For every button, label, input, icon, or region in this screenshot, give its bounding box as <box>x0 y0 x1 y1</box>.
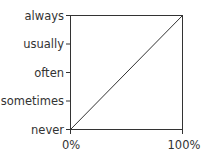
x-label-0: 0% <box>62 138 80 152</box>
y-label-never: never <box>31 123 64 137</box>
x-ticks <box>71 130 183 135</box>
y-label-usually: usually <box>23 37 64 51</box>
diagonal-line <box>71 16 183 130</box>
y-label-often: often <box>34 66 64 80</box>
y-label-sometimes: sometimes <box>1 94 64 108</box>
y-label-always: always <box>25 9 65 23</box>
x-label-100: 100% <box>168 138 201 152</box>
chart: always usually often sometimes never 0% … <box>0 0 213 161</box>
y-ticks <box>66 16 71 130</box>
